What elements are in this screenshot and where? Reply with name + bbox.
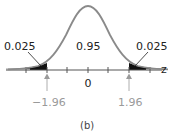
- normal-curve: [8, 6, 168, 69]
- crit-left-arrow: [44, 74, 50, 92]
- crit-right-label: 1.96: [118, 96, 143, 109]
- axis-zero-label: 0: [85, 77, 92, 90]
- axis-variable-label: z: [161, 63, 167, 76]
- normal-distribution-chart: 0.025 0.95 0.025 0 z −1.96 1.96 (b): [0, 0, 176, 138]
- figure-caption: (b): [80, 120, 94, 131]
- right-tail-label: 0.025: [136, 40, 168, 53]
- left-tail-label: 0.025: [4, 40, 36, 53]
- crit-left-label: −1.96: [32, 96, 66, 109]
- center-area-label: 0.95: [76, 40, 101, 53]
- crit-right-arrow: [126, 74, 132, 92]
- left-tail-pointer: [28, 52, 41, 66]
- right-tail-pointer: [135, 52, 148, 66]
